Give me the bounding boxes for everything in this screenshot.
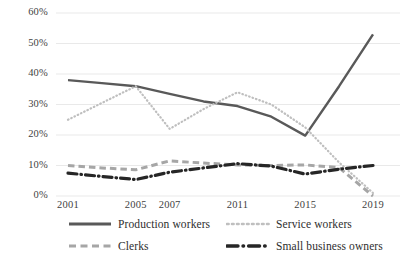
y-axis-tick-label: 30% bbox=[14, 98, 48, 109]
x-axis-tick-label: 2015 bbox=[283, 199, 327, 210]
legend-item-small-business-owners[interactable]: Small business owners bbox=[226, 236, 383, 256]
legend-label-clerks: Clerks bbox=[118, 240, 149, 252]
legend-swatch-dotted-icon bbox=[226, 218, 270, 230]
legend-item-service-workers[interactable]: Service workers bbox=[226, 214, 352, 234]
legend-row-2: Clerks Small business owners bbox=[0, 236, 410, 256]
legend-swatch-dashed-icon bbox=[68, 240, 112, 252]
y-axis-tick-label: 0% bbox=[14, 189, 48, 200]
line-chart: 0%10%20%30%40%50%60% 2001200520072011201… bbox=[0, 0, 410, 257]
legend-swatch-dashdot-icon bbox=[226, 240, 270, 252]
y-axis-tick-label: 60% bbox=[14, 6, 48, 17]
x-axis-tick-label: 2011 bbox=[215, 199, 259, 210]
x-axis-tick-label: 2001 bbox=[46, 199, 90, 210]
y-axis-tick-label: 40% bbox=[14, 67, 48, 78]
series-line-small-business-owners bbox=[68, 164, 373, 180]
x-axis-tick-label: 2007 bbox=[148, 199, 192, 210]
legend-item-clerks[interactable]: Clerks bbox=[68, 236, 149, 256]
chart-legend: Production workers Service workers Clerk… bbox=[0, 214, 410, 257]
legend-item-production-workers[interactable]: Production workers bbox=[68, 214, 210, 234]
legend-label-production-workers: Production workers bbox=[118, 218, 210, 230]
y-axis-tick-label: 10% bbox=[14, 159, 48, 170]
series-line-production-workers bbox=[68, 34, 373, 135]
y-axis-tick-label: 20% bbox=[14, 128, 48, 139]
x-axis-tick-label: 2019 bbox=[351, 199, 395, 210]
legend-swatch-solid-icon bbox=[68, 218, 112, 230]
legend-label-service-workers: Service workers bbox=[276, 218, 352, 230]
legend-row-1: Production workers Service workers bbox=[0, 214, 410, 234]
y-axis-tick-label: 50% bbox=[14, 37, 48, 48]
legend-label-small-business-owners: Small business owners bbox=[276, 240, 383, 252]
